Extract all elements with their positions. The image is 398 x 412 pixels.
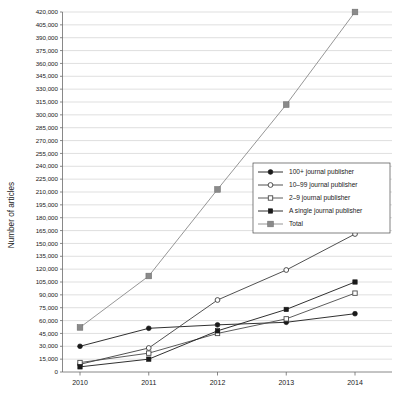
y-axis-tick-label: 315,000 <box>36 98 59 105</box>
y-axis-tick-label: 30,000 <box>39 342 58 349</box>
y-axis-tick-label: 0 <box>55 368 59 375</box>
x-axis-ticks: 20102011201220132014 <box>72 372 363 386</box>
legend-item-label: 100+ journal publisher <box>289 168 355 176</box>
data-point-marker <box>78 365 82 369</box>
data-point-marker <box>353 311 358 316</box>
data-point-marker <box>353 280 357 284</box>
y-axis-tick-label: 15,000 <box>39 355 58 362</box>
y-axis-tick-label: 225,000 <box>36 175 59 182</box>
x-axis-tick-label: 2012 <box>210 379 226 386</box>
y-axis-tick-label: 255,000 <box>36 150 59 157</box>
data-point-marker <box>146 346 151 351</box>
y-axis-tick-label: 285,000 <box>36 124 59 131</box>
data-point-marker <box>353 291 357 295</box>
y-axis-tick-label: 90,000 <box>39 291 58 298</box>
y-axis-title: Number of articles <box>7 182 16 248</box>
y-axis-tick-label: 390,000 <box>36 34 59 41</box>
data-point-marker <box>146 326 151 331</box>
y-axis-tick-label: 405,000 <box>36 21 59 28</box>
x-axis-tick-label: 2011 <box>141 379 156 386</box>
data-point-marker <box>146 273 152 279</box>
y-axis-tick-label: 150,000 <box>36 240 59 247</box>
y-axis-tick-label: 75,000 <box>39 304 58 311</box>
data-point-marker <box>215 187 221 193</box>
x-axis-tick-label: 2010 <box>72 379 88 386</box>
y-axis-tick-label: 195,000 <box>36 201 59 208</box>
y-axis-tick-labels: 420,000405,000390,000375,000360,000345,0… <box>36 8 59 375</box>
y-axis-tick-label: 240,000 <box>36 162 59 169</box>
data-point-marker <box>77 325 83 331</box>
x-axis-tick-label: 2013 <box>278 379 294 386</box>
y-axis-tick-label: 360,000 <box>36 60 59 67</box>
y-axis-tick-label: 45,000 <box>39 330 58 337</box>
legend-item-label: Total <box>289 220 303 227</box>
data-point-marker <box>283 102 289 108</box>
data-point-marker <box>215 329 219 333</box>
legend-item-label: 2–9 journal publisher <box>289 194 351 202</box>
y-axis-tick-label: 135,000 <box>36 252 59 259</box>
y-axis-tick-label: 345,000 <box>36 72 59 79</box>
data-point-marker <box>215 298 220 303</box>
line-chart: 420,000405,000390,000375,000360,000345,0… <box>0 0 398 412</box>
data-point-marker <box>147 357 151 361</box>
y-axis-tick-label: 210,000 <box>36 188 59 195</box>
legend-marker-icon <box>268 196 272 200</box>
data-point-marker <box>284 317 288 321</box>
data-point-marker <box>78 360 82 364</box>
y-axis-tick-label: 180,000 <box>36 214 59 221</box>
y-axis-tick-label: 105,000 <box>36 278 59 285</box>
y-axis-tick-label: 375,000 <box>36 47 59 54</box>
chart-legend: 100+ journal publisher10–99 journal publ… <box>253 163 390 233</box>
legend-marker-icon <box>268 183 273 188</box>
data-point-marker <box>78 344 83 349</box>
data-point-marker <box>284 268 289 273</box>
y-axis-tick-label: 330,000 <box>36 85 59 92</box>
data-point-marker <box>147 351 151 355</box>
legend-marker-icon <box>268 209 272 213</box>
y-axis-tick-label: 60,000 <box>39 317 58 324</box>
y-axis-tick-label: 420,000 <box>36 8 59 15</box>
y-axis-tick-label: 270,000 <box>36 137 59 144</box>
x-axis-tick-label: 2014 <box>347 379 363 386</box>
data-point-marker <box>284 307 288 311</box>
legend-item-label: 10–99 journal publisher <box>289 181 358 189</box>
legend-marker-icon <box>268 170 273 175</box>
y-axis-tick-label: 120,000 <box>36 265 59 272</box>
series-line <box>80 293 355 362</box>
data-point-marker <box>352 9 358 15</box>
legend-item-label: A single journal publisher <box>289 207 363 215</box>
data-point-marker <box>215 322 220 327</box>
y-axis-tick-label: 300,000 <box>36 111 59 118</box>
y-axis-tick-label: 165,000 <box>36 227 59 234</box>
chart-container: 420,000405,000390,000375,000360,000345,0… <box>0 0 398 412</box>
legend-marker-icon <box>268 221 274 227</box>
